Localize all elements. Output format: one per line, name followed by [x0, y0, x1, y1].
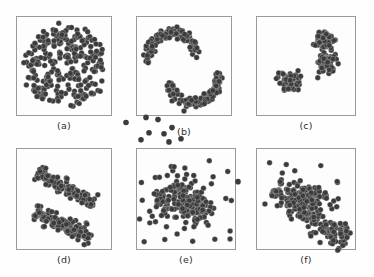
scatter-panel-d	[16, 148, 112, 250]
scatter-panel-b	[136, 16, 232, 116]
scatter-plot-d	[17, 149, 111, 249]
scatter-panel-f	[256, 148, 356, 250]
scatter-plot-e	[137, 149, 235, 249]
scatter-panel-a	[16, 16, 112, 116]
panel-label-b: (b)	[136, 126, 232, 137]
panel-label-e: (e)	[136, 254, 236, 265]
scatter-plot-f	[257, 149, 355, 249]
scatter-plot-a	[17, 17, 111, 115]
panel-label-a: (a)	[16, 120, 112, 131]
scatter-panel-c	[256, 16, 356, 116]
scatter-plot-c	[257, 17, 355, 115]
figure-panel-grid: (a) (b) (c) (d) (e) (f)	[0, 0, 374, 277]
panel-label-c: (c)	[256, 120, 356, 131]
scatter-panel-e	[136, 148, 236, 250]
scatter-plot-b	[137, 17, 231, 115]
panel-label-d: (d)	[16, 254, 112, 265]
panel-label-f: (f)	[256, 254, 356, 265]
